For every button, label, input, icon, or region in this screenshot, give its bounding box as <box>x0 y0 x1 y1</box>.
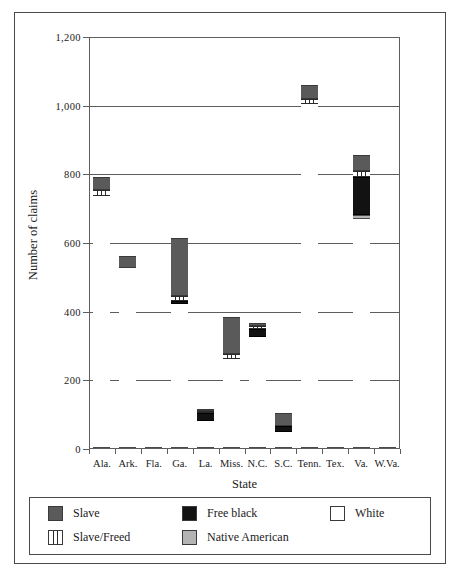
y-tick-label: 600 <box>64 238 81 249</box>
chart-legend: SlaveFree blackWhiteSlave/FreedNative Am… <box>29 497 431 555</box>
bar-ark[interactable] <box>119 257 136 448</box>
bar-segment-slave-freed <box>93 190 110 197</box>
bar-segment-white <box>197 421 214 447</box>
white-swatch <box>330 506 345 521</box>
x-tick-label: La. <box>199 458 213 469</box>
bar-segment-slave <box>119 256 136 268</box>
x-tick-mark <box>296 449 297 454</box>
bar-segment-slave <box>353 155 370 170</box>
x-tick-mark <box>322 449 323 454</box>
plot-area: 02004006008001,0001,200 Ala.Ark.Fla.Ga.L… <box>89 37 400 449</box>
bar-segment-white <box>301 104 318 447</box>
legend-label: Slave/Freed <box>73 530 130 545</box>
y-tick-mark <box>83 243 89 244</box>
x-tick-mark <box>115 449 116 454</box>
bar-fla[interactable] <box>145 436 162 448</box>
x-tick-label: Tex. <box>326 458 344 469</box>
y-tick-label: 200 <box>64 375 81 386</box>
x-tick-label: Ala. <box>93 458 111 469</box>
plot-frame: 02004006008001,0001,200 Ala.Ark.Fla.Ga.L… <box>89 37 400 449</box>
x-tick-label: Miss. <box>220 458 243 469</box>
bar-sc[interactable] <box>275 414 292 448</box>
bar-segment-slave <box>93 177 110 189</box>
legend-label: Free black <box>207 506 257 521</box>
legend-label: Slave <box>73 506 100 521</box>
bar-segment-free-black <box>197 413 214 422</box>
legend-item-slave[interactable]: Slave <box>48 506 100 521</box>
y-tick-mark <box>83 37 89 38</box>
x-tick-mark <box>193 449 194 454</box>
bar-wva[interactable] <box>379 434 396 448</box>
x-tick-mark <box>245 449 246 454</box>
bar-ga[interactable] <box>171 239 188 448</box>
bar-segment-white <box>223 359 240 447</box>
bar-segment-slave-freed <box>353 171 370 178</box>
gridline <box>89 106 400 107</box>
y-tick-mark <box>83 106 89 107</box>
x-tick-mark <box>141 449 142 454</box>
bar-segment-slave-freed <box>249 326 266 328</box>
x-tick-mark <box>89 449 90 454</box>
y-tick-label: 1,200 <box>55 32 81 43</box>
legend-item-white[interactable]: White <box>330 506 384 521</box>
y-tick-label: 400 <box>64 306 81 317</box>
x-tick-label: N.C. <box>248 458 268 469</box>
bar-segment-free-black <box>275 426 292 431</box>
x-tick-label: S.C. <box>274 458 292 469</box>
bar-segment-slave <box>249 323 266 326</box>
x-tick-mark <box>270 449 271 454</box>
bar-segment-slave-freed <box>223 354 240 359</box>
y-axis-title: Number of claims <box>26 190 41 280</box>
bar-segment-white <box>275 432 292 447</box>
bar-segment-slave <box>223 317 240 355</box>
x-tick-label: Ga. <box>172 458 187 469</box>
legend-label: Native American <box>207 530 289 545</box>
x-tick-label: Va. <box>354 458 368 469</box>
bar-segment-white <box>171 304 188 448</box>
y-tick-mark <box>83 312 89 313</box>
x-tick-mark <box>219 449 220 454</box>
gridline <box>89 37 400 38</box>
legend-item-native-american[interactable]: Native American <box>182 530 289 545</box>
x-tick-mark <box>348 449 349 454</box>
x-tick-label: W.Va. <box>374 458 399 469</box>
chart-figure: Number of claims 02004006008001,0001,200… <box>14 12 446 564</box>
bar-nc[interactable] <box>249 324 266 448</box>
bar-segment-slave <box>301 85 318 99</box>
bar-segment-slave <box>171 238 188 296</box>
bar-segment-slave-freed <box>171 296 188 301</box>
x-tick-mark <box>167 449 168 454</box>
bar-segment-white <box>249 337 266 447</box>
legend-item-slave-freed[interactable]: Slave/Freed <box>48 530 130 545</box>
bar-segment-slave <box>275 413 292 427</box>
bar-segment-white <box>379 433 396 447</box>
bar-segment-white <box>93 196 110 447</box>
bar-segment-slave-freed <box>197 411 214 413</box>
x-tick-mark <box>400 449 401 454</box>
bar-tenn[interactable] <box>301 86 318 448</box>
bar-la[interactable] <box>197 410 214 448</box>
y-tick-label: 0 <box>75 444 81 455</box>
bar-miss[interactable] <box>223 318 240 448</box>
x-tick-label: Fla. <box>146 458 162 469</box>
bar-segment-white <box>327 441 344 447</box>
x-axis-title: State <box>89 477 400 492</box>
bar-segment-white <box>119 268 136 447</box>
bar-tex[interactable] <box>327 442 344 448</box>
x-tick-label: Tenn. <box>298 458 321 469</box>
bar-segment-slave-freed <box>301 99 318 104</box>
bar-va[interactable] <box>353 156 370 448</box>
bar-segment-free-black <box>353 177 370 215</box>
bar-segment-free-black <box>171 301 188 303</box>
legend-item-free-black[interactable]: Free black <box>182 506 257 521</box>
free-black-swatch <box>182 506 197 521</box>
bar-segment-free-black <box>249 329 266 338</box>
native-american-swatch <box>182 530 197 545</box>
bar-ala[interactable] <box>93 178 110 448</box>
slave-freed-swatch <box>48 530 63 545</box>
bar-segment-native-american <box>353 215 370 218</box>
legend-label: White <box>355 506 384 521</box>
slave-swatch <box>48 506 63 521</box>
bar-segment-white <box>353 219 370 447</box>
bar-segment-slave <box>197 409 214 411</box>
